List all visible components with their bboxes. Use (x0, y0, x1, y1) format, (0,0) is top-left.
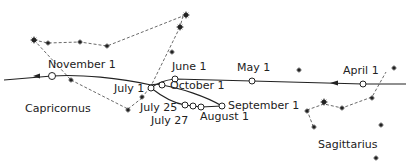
sagittarius-lines (307, 72, 386, 126)
label-may-1: May 1 (237, 62, 270, 74)
label-november-1: November 1 (48, 59, 116, 71)
label-october-1: October 1 (170, 80, 225, 92)
label-july-25: July 25 (140, 102, 177, 114)
arrow-icon (330, 81, 338, 86)
label-july-27: July 27 (151, 115, 188, 127)
label-capricornus: Capricornus (25, 103, 91, 115)
label-june-1: June 1 (172, 61, 206, 73)
label-july-1: July 1 (114, 83, 144, 95)
label-april-1: April 1 (343, 65, 379, 77)
ecliptic-diagram: November 1 June 1 May 1 April 1 July 1 O… (0, 0, 406, 166)
label-august-1: August 1 (200, 111, 249, 123)
label-sagittarius: Sagittarius (318, 139, 377, 151)
